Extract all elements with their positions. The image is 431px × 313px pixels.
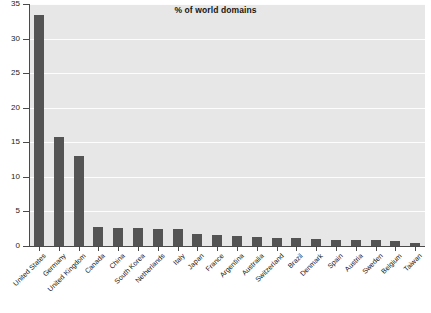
x-axis-tick bbox=[237, 247, 238, 251]
x-axis-tick bbox=[296, 247, 297, 251]
x-axis-tick-label: Japan bbox=[187, 252, 206, 271]
bar bbox=[93, 227, 103, 246]
bar bbox=[351, 240, 361, 246]
gridline bbox=[29, 142, 425, 143]
y-axis-tick bbox=[23, 73, 29, 74]
x-axis-tick bbox=[376, 247, 377, 251]
x-axis-tick bbox=[39, 247, 40, 251]
gridline bbox=[29, 73, 425, 74]
y-axis-tick-label: 5 bbox=[0, 206, 20, 215]
x-axis-tick-label: Canada bbox=[84, 252, 107, 275]
bar bbox=[74, 156, 84, 246]
y-axis-tick bbox=[23, 211, 29, 212]
bar bbox=[173, 229, 183, 246]
gridline bbox=[29, 108, 425, 109]
bar bbox=[272, 238, 282, 246]
x-axis-tick bbox=[257, 247, 258, 251]
y-axis-tick-label: 35 bbox=[0, 0, 20, 8]
bar bbox=[133, 228, 143, 246]
bar bbox=[192, 234, 202, 246]
bar-chart: % of world domains 05101520253035 United… bbox=[0, 0, 431, 313]
bar bbox=[252, 237, 262, 246]
bar bbox=[311, 239, 321, 246]
gridline bbox=[29, 39, 425, 40]
x-axis-tick bbox=[316, 247, 317, 251]
x-axis-tick bbox=[98, 247, 99, 251]
x-axis-tick-label: Italy bbox=[171, 252, 185, 266]
y-axis-line bbox=[29, 4, 30, 246]
y-axis-tick-label: 0 bbox=[0, 241, 20, 250]
bar bbox=[212, 235, 222, 246]
bar bbox=[371, 240, 381, 246]
x-axis-tick bbox=[197, 247, 198, 251]
x-axis-line bbox=[29, 246, 425, 247]
y-axis-tick-label: 25 bbox=[0, 68, 20, 77]
x-axis-tick bbox=[59, 247, 60, 251]
bar bbox=[291, 238, 301, 246]
x-axis-tick bbox=[118, 247, 119, 251]
y-axis-tick bbox=[23, 39, 29, 40]
x-axis-tick-label: Spain bbox=[326, 252, 344, 270]
y-axis-tick bbox=[23, 246, 29, 247]
bar bbox=[390, 241, 400, 246]
x-axis-tick bbox=[79, 247, 80, 251]
x-axis-tick bbox=[336, 247, 337, 251]
chart-title: % of world domains bbox=[0, 5, 431, 15]
y-axis-tick bbox=[23, 108, 29, 109]
x-axis-tick bbox=[277, 247, 278, 251]
bar bbox=[113, 228, 123, 246]
x-axis-tick-label: United States bbox=[12, 252, 47, 287]
bar bbox=[34, 15, 44, 246]
bar bbox=[153, 229, 163, 246]
x-axis-tick bbox=[395, 247, 396, 251]
bar bbox=[410, 243, 420, 246]
x-axis-tick bbox=[217, 247, 218, 251]
x-axis-tick bbox=[158, 247, 159, 251]
x-axis-tick-label: Taiwan bbox=[402, 252, 423, 273]
x-axis-tick bbox=[178, 247, 179, 251]
x-axis-tick bbox=[356, 247, 357, 251]
bar bbox=[54, 137, 64, 246]
x-axis-tick-label: Brazil bbox=[287, 252, 305, 270]
x-axis-tick bbox=[415, 247, 416, 251]
y-axis-tick-label: 15 bbox=[0, 137, 20, 146]
gridline bbox=[29, 177, 425, 178]
bar bbox=[331, 240, 341, 246]
y-axis-tick-label: 30 bbox=[0, 34, 20, 43]
plot-area bbox=[29, 4, 425, 246]
gridline bbox=[29, 211, 425, 212]
y-axis-tick-label: 20 bbox=[0, 103, 20, 112]
y-axis-tick bbox=[23, 177, 29, 178]
y-axis-tick-label: 10 bbox=[0, 172, 20, 181]
y-axis-tick bbox=[23, 142, 29, 143]
x-axis-tick-label: Sweden bbox=[360, 252, 383, 275]
x-axis-tick-label: China bbox=[108, 252, 126, 270]
y-axis-tick bbox=[23, 4, 29, 5]
x-axis-tick bbox=[138, 247, 139, 251]
bar bbox=[232, 236, 242, 246]
x-axis-tick-label: United Kingdom bbox=[46, 252, 87, 293]
